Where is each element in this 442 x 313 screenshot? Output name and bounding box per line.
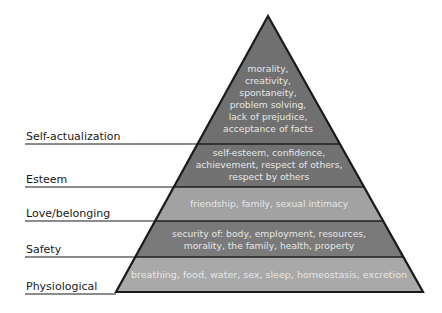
band-line: lack of prejudice, bbox=[229, 111, 308, 122]
band-line: security of: body, employment, resources… bbox=[172, 228, 366, 239]
band-line: friendship, family, sexual intimacy bbox=[190, 198, 349, 209]
label-physiological: Physiological bbox=[26, 280, 97, 293]
label-safety: Safety bbox=[26, 243, 62, 256]
band-line: spontaneity, bbox=[239, 87, 296, 98]
band-safety bbox=[135, 221, 403, 257]
band-line: respect by others bbox=[229, 171, 310, 182]
band-line: self-esteem, confidence, bbox=[213, 147, 325, 158]
label-self-actualization: Self-actualization bbox=[26, 130, 121, 143]
band-line: morality, the family, health, property bbox=[184, 240, 355, 251]
text-physiological: breathing, food, water, sex, sleep, home… bbox=[131, 269, 407, 280]
band-line: morality, bbox=[247, 63, 288, 74]
band-line: creativity, bbox=[245, 75, 291, 86]
label-love-belonging: Love/belonging bbox=[26, 207, 110, 220]
band-line: achievement, respect of others, bbox=[196, 159, 343, 170]
text-love-belonging: friendship, family, sexual intimacy bbox=[190, 198, 349, 209]
band-line: problem solving, bbox=[230, 99, 307, 110]
maslow-pyramid-diagram: Self-actualization Esteem Love/belonging… bbox=[0, 0, 442, 313]
band-line: acceptance of facts bbox=[223, 123, 313, 134]
label-esteem: Esteem bbox=[26, 173, 67, 186]
band-line: breathing, food, water, sex, sleep, home… bbox=[131, 269, 407, 280]
text-safety: security of: body, employment, resources… bbox=[172, 228, 366, 251]
